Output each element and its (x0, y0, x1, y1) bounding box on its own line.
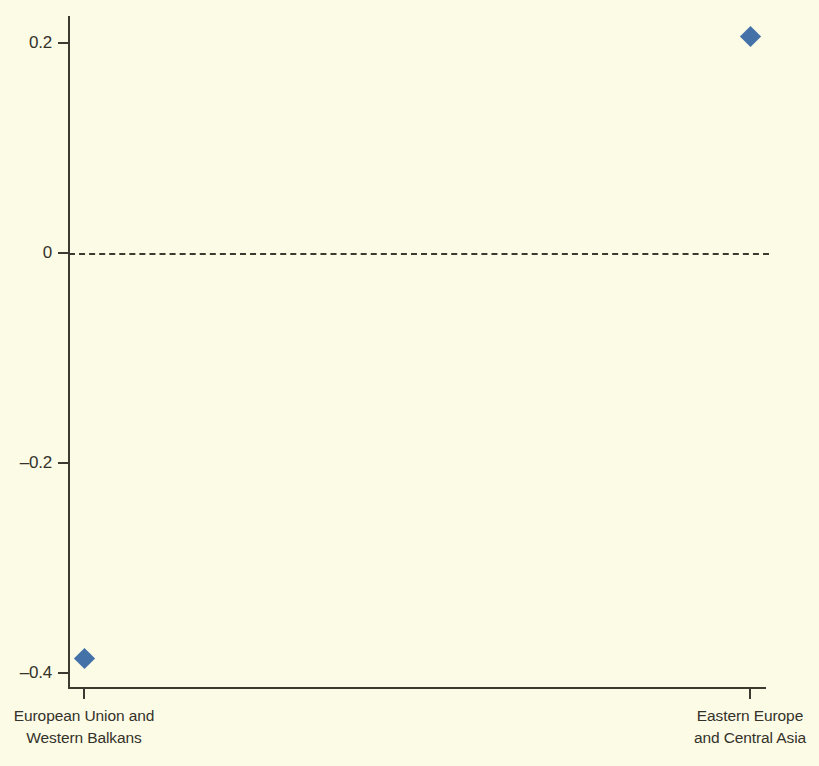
y-axis-tick-label-2: –0.2 (20, 452, 52, 474)
x-axis-category-label-european-union-and-western-balkans: European Union and Western Balkans (0, 705, 199, 749)
zero-reference-line (69, 253, 769, 255)
y-axis-tick-mark-0 (58, 42, 69, 44)
x-axis-category-label-eastern-europe-and-central-asia: Eastern Europe and Central Asia (635, 705, 819, 749)
y-axis-tick-label-1: 0 (43, 242, 52, 264)
y-axis-tick-mark-1 (58, 252, 69, 254)
x-axis-tick-mark-0 (83, 687, 85, 699)
y-axis-tick-mark-2 (58, 462, 69, 464)
x-axis-tick-mark-1 (749, 687, 751, 699)
y-axis-tick-label-3: –0.4 (20, 662, 52, 684)
chart-container: 0.2 0 –0.2 –0.4 European Union and Weste… (0, 0, 819, 766)
y-axis-tick-label-0: 0.2 (29, 32, 52, 54)
y-axis-tick-mark-3 (58, 672, 69, 674)
x-axis-line (68, 687, 766, 689)
y-axis-line (68, 16, 70, 689)
plot-area (69, 16, 766, 687)
